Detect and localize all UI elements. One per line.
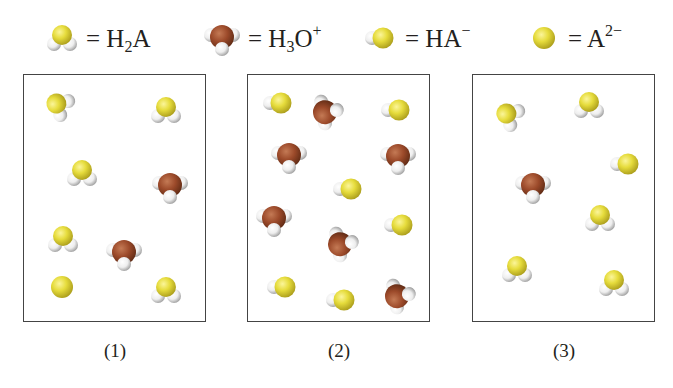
h2a-molecule-icon [151,277,181,303]
panel-2-molecules [248,75,431,323]
hydronium-molecule-icon [106,240,142,271]
h2a-molecule-icon [599,270,629,296]
legend-label-h2a: = H2A [86,26,150,51]
ha-anion-molecule-icon [610,154,639,175]
a2-anion-molecule-icon [51,276,73,298]
legend-label-a2-anion: = A2− [568,26,622,51]
ha-anion-molecule-icon [263,93,292,114]
ha-anion-molecule-icon [381,100,410,121]
hydronium-molecule-icon [310,91,347,132]
hydronium-molecule-icon [380,144,416,175]
legend-item-a2-anion: = A2− [526,18,622,58]
h2a-molecule-icon [48,226,78,252]
legend-item-hydronium: = H3O+ [202,18,322,58]
panel-1-molecules [24,75,207,323]
legend-label-ha-anion: = HA− [405,26,471,51]
h2a-molecule-icon [585,205,615,231]
h2a-molecule-icon [502,256,532,282]
legend-item-h2a: = H2A [44,18,150,58]
legend-label-hydronium: = H3O+ [248,26,322,51]
ha-anion-molecule-icon [267,277,296,298]
panel-1 [23,74,206,322]
hydronium-molecule-icon [271,143,307,174]
ha-anion-molecule-icon [333,179,362,200]
h2a-molecule-icon [44,20,80,56]
a2-anion-molecule-icon [526,20,562,56]
panel-3-molecules [473,75,656,323]
ha-anion-molecule-icon [384,215,413,236]
h2a-molecule-icon [490,96,528,135]
h2a-molecule-icon [574,92,604,118]
legend: = H2A = H3O+ = HA− = A2− [0,0,673,62]
h2a-molecule-icon [40,86,78,125]
panel-2 [247,74,430,322]
panel-1-label: (1) [85,340,145,362]
ha-anion-molecule-icon [363,20,399,56]
hydronium-molecule-icon [152,173,188,204]
h2a-molecule-icon [151,97,181,123]
panel-3-label: (3) [534,340,594,362]
hydronium-molecule-icon [515,173,551,204]
legend-item-ha-anion: = HA− [363,18,471,58]
panel-3 [472,74,655,322]
h2a-molecule-icon [67,160,97,186]
panel-2-label: (2) [309,340,369,362]
hydronium-molecule-icon [202,18,242,58]
hydronium-molecule-icon [382,275,419,316]
hydronium-molecule-icon [256,206,292,237]
ha-anion-molecule-icon [326,290,355,311]
hydronium-molecule-icon [325,223,362,264]
